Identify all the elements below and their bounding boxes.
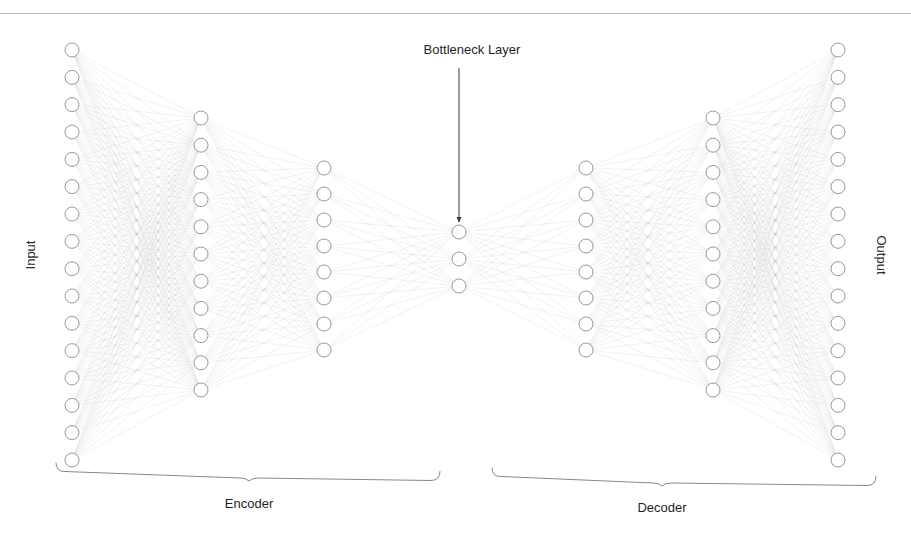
network-edge (586, 200, 713, 324)
network-edge (201, 168, 324, 336)
network-edge (72, 118, 201, 241)
network-node-input-9 (65, 262, 79, 276)
network-edge (324, 259, 459, 272)
network-edge (201, 145, 324, 350)
network-node-decoder-5 (579, 265, 593, 279)
network-node-output-7 (831, 207, 845, 221)
network-node-input-14 (65, 398, 79, 412)
network-node-encoder-1 (317, 161, 331, 175)
network-edge (201, 254, 324, 272)
network-edge (586, 336, 713, 350)
network-edge (586, 350, 713, 390)
network-node-output-15 (831, 426, 845, 440)
network-node-encoder-5 (194, 220, 208, 234)
network-edge (586, 272, 713, 281)
network-node-encoder-8 (194, 301, 208, 315)
network-edge (201, 194, 324, 336)
network-node-output-1 (831, 43, 845, 57)
network-edge (586, 118, 713, 298)
network-edge (713, 390, 838, 433)
network-node-input-16 (65, 453, 79, 467)
network-edge (324, 194, 459, 286)
network-node-output-16 (831, 453, 845, 467)
network-edge (72, 118, 201, 187)
network-node-encoder-9 (194, 329, 208, 343)
network-node-output-13 (831, 371, 845, 385)
network-node-input-7 (65, 207, 79, 221)
network-edge (586, 298, 713, 363)
network-node-encoder-4 (194, 193, 208, 207)
network-node-encoder-6 (317, 291, 331, 305)
network-edge (324, 194, 459, 259)
network-node-output-12 (831, 344, 845, 358)
network-edge (586, 254, 713, 350)
network-node-output-2 (831, 70, 845, 84)
network-node-input-15 (65, 426, 79, 440)
network-node-output-3 (831, 98, 845, 112)
network-edge (713, 50, 838, 254)
network-edge (586, 308, 713, 324)
network-node-decoder-7 (579, 317, 593, 331)
brace-decoder (492, 468, 876, 486)
network-edge (201, 298, 324, 308)
network-node-input-2 (65, 70, 79, 84)
network-edge (201, 172, 324, 220)
network-edge (586, 194, 713, 254)
network-edge (201, 272, 324, 281)
network-edge (201, 246, 324, 308)
network-edge (201, 145, 324, 324)
network-edge (586, 118, 713, 220)
network-edge (201, 200, 324, 220)
network-edge (586, 298, 713, 308)
network-edge (713, 50, 838, 172)
network-node-decoder-8 (579, 343, 593, 357)
network-node-encoder-8 (317, 343, 331, 357)
network-node-input-11 (65, 316, 79, 330)
network-edge (201, 118, 324, 350)
network-edge (586, 145, 713, 324)
network-edge (201, 227, 324, 246)
network-edge (324, 232, 459, 350)
network-edge (586, 246, 713, 390)
network-edge (201, 200, 324, 324)
network-node-output-9 (831, 262, 845, 276)
network-edge (459, 232, 586, 246)
network-edge (586, 298, 713, 390)
network-edge (459, 259, 586, 324)
network-node-decoder-2 (706, 138, 720, 152)
network-edge (324, 259, 459, 350)
network-edge (586, 227, 713, 246)
network-edge (459, 168, 586, 232)
network-node-encoder-2 (317, 187, 331, 201)
network-edge (201, 118, 324, 246)
network-node-decoder-11 (706, 383, 720, 397)
network-edge (586, 172, 713, 220)
network-edge (459, 272, 586, 286)
network-edge (713, 50, 838, 308)
network-edge (324, 168, 459, 259)
network-edge (459, 286, 586, 324)
network-node-output-5 (831, 152, 845, 166)
network-node-decoder-4 (706, 193, 720, 207)
network-edge (324, 259, 459, 324)
network-node-decoder-1 (706, 111, 720, 125)
network-edge (324, 168, 459, 232)
network-edge (459, 232, 586, 350)
network-edge (586, 272, 713, 308)
network-edge (324, 286, 459, 324)
network-edge (586, 200, 713, 246)
network-edge (586, 246, 713, 308)
network-edge (586, 118, 713, 246)
network-node-output-6 (831, 180, 845, 194)
network-edge (586, 220, 713, 281)
network-node-output-11 (831, 316, 845, 330)
bottleneck-layer-label: Bottleneck Layer (424, 42, 521, 57)
network-edge (324, 194, 459, 232)
network-node-encoder-3 (317, 213, 331, 227)
network-edge (72, 118, 201, 269)
network-edge (713, 50, 838, 227)
network-edge (459, 232, 586, 324)
network-edge (586, 194, 713, 336)
network-node-input-5 (65, 152, 79, 166)
network-edge (459, 246, 586, 259)
